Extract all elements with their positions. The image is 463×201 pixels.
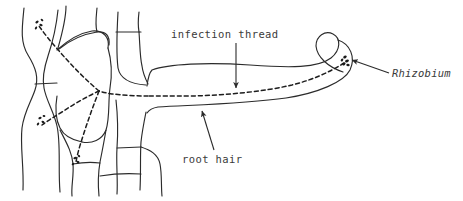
epidermal-cell-lower-right [140, 112, 146, 190]
epidermal-cell-cross-bar [117, 147, 141, 148]
epidermal-cell-upper-left [117, 12, 146, 85]
cell-wall-central-lower [56, 96, 82, 142]
root-hair-infection-diagram: infection thread root hair Rhizobium [0, 0, 463, 201]
cell-wall-central-upper [57, 31, 108, 50]
cell-wall-central-right [82, 48, 111, 143]
root-hair-lower-wall [147, 40, 352, 113]
epidermal-cell-lower-tail [141, 147, 162, 196]
cell-wall-lower-mid-left [60, 130, 73, 196]
cell-wall-far-left [21, 8, 36, 190]
label-rhizobium: Rhizobium [392, 68, 451, 79]
infection-thread-into-cell [99, 91, 148, 96]
infection-thread-path [39, 26, 344, 162]
epidermal-cell-right-upper [139, 32, 148, 84]
cell-wall-upper-mid [59, 32, 109, 49]
bacteria-clusters [34, 18, 350, 165]
epidermal-cell-lower-left [116, 100, 118, 194]
root-hair-leader-line [202, 111, 214, 150]
cell-wall-upper-mid-right [96, 8, 97, 32]
cell-wall-upper-mid-top [58, 6, 66, 48]
epidermal-cell-upper-right [138, 12, 139, 32]
root-hair-upper-wall [147, 33, 343, 86]
rhizobium-leader-line [352, 60, 389, 73]
cell-cross-wall-left [35, 83, 57, 84]
epidermal-cell-bottom-edge [100, 174, 141, 176]
cell-wall-left-inner [43, 10, 60, 192]
infection-thread-branch-upper [39, 26, 99, 91]
label-root-hair: root hair [182, 154, 243, 165]
bacteria-cluster-upper-left [34, 18, 43, 30]
label-infection-thread: infection thread [171, 29, 279, 40]
